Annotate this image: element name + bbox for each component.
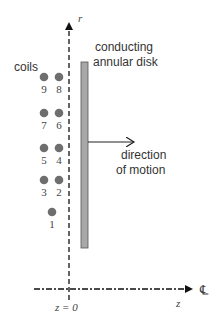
motion-label-line1: direction: [121, 148, 166, 162]
motion-label-line2: of motion: [116, 163, 165, 177]
coil-5-label: 5: [41, 154, 47, 166]
coil-9-label: 9: [41, 83, 47, 95]
z-axis-label: z: [175, 297, 181, 309]
coils-label: coils: [14, 60, 38, 74]
coil-3-label: 3: [41, 186, 47, 198]
conducting-annular-disk: [81, 62, 88, 248]
z-origin-label: z = 0: [54, 301, 78, 313]
coil-9-icon: [40, 73, 49, 82]
disk-label-line1: conducting: [95, 40, 153, 54]
coil-2-label: 2: [56, 186, 62, 198]
coil-4-icon: [55, 144, 64, 153]
coil-1-icon: [48, 208, 57, 217]
coil-6-icon: [55, 109, 64, 118]
coil-6-label: 6: [56, 119, 62, 131]
coil-3-icon: [40, 176, 49, 185]
coil-4-label: 4: [56, 154, 62, 166]
coil-1-label: 1: [49, 218, 55, 230]
disk-label-line2: annular disk: [93, 55, 159, 69]
coil-8-label: 8: [56, 83, 62, 95]
coil-disk-diagram: r ℄ z z = 0 coils 987654321 conducting a…: [0, 0, 218, 330]
coil-7-label: 7: [41, 119, 47, 131]
coil-8-icon: [55, 73, 64, 82]
coil-7-icon: [40, 109, 49, 118]
coil-5-icon: [40, 144, 49, 153]
coil-group: 987654321: [40, 73, 64, 230]
r-axis-label: r: [78, 12, 83, 24]
coil-2-icon: [55, 176, 64, 185]
centerline-symbol: ℄: [199, 282, 209, 297]
